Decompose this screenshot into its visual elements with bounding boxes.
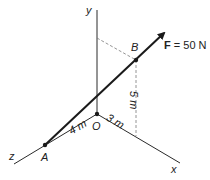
point-a-label: A [41, 152, 48, 163]
force-symbol: F [164, 39, 171, 51]
point-origin [95, 112, 99, 116]
point-b [134, 58, 138, 62]
force-vector-arrow [45, 33, 164, 145]
point-b-label: B [131, 42, 138, 53]
force-diagram [0, 0, 210, 180]
point-a [43, 143, 47, 147]
y-axis-label: y [86, 5, 92, 16]
z-axis-label: z [9, 151, 15, 162]
origin-label: O [92, 121, 101, 132]
x-axis-label: x [171, 164, 177, 175]
dimension-5m: 5 m [128, 91, 139, 109]
force-value: = 50 N [171, 39, 207, 51]
force-label: F = 50 N [164, 40, 207, 51]
